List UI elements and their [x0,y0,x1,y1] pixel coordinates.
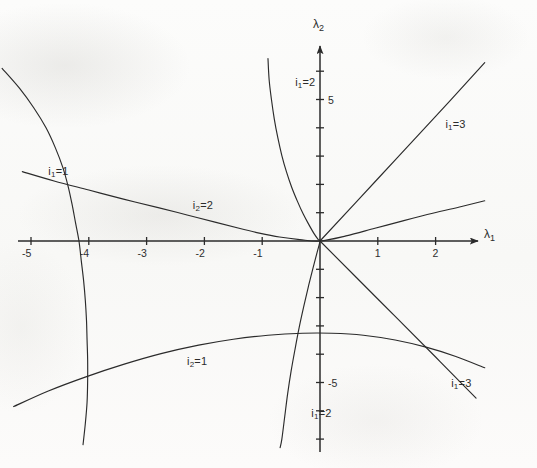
x-tick-label: -4 [80,248,89,259]
curve-label-value: =2 [319,407,332,419]
curve-i2_eq_1 [14,333,485,407]
curves-group [2,58,485,447]
curve-i1_eq_3_lower [320,241,476,398]
x-tick-label: -1 [253,248,262,259]
curve-label-value: =3 [453,118,466,130]
curve-label-value: =1 [194,355,207,367]
plot-drawing [0,0,537,468]
x-tick-label: -3 [138,248,147,259]
curve-label-2: i1=2 [295,77,315,90]
curve-label-value: =2 [200,199,213,211]
y-axis-title-subscript: 2 [319,23,324,33]
x-axis-title-subscript: 1 [490,233,495,243]
y-tick-label: -5 [328,378,337,389]
curve-i1_eq_1 [2,68,88,444]
curve-label-1: i1=1 [48,166,68,179]
x-tick-label: -2 [195,248,204,259]
curve-i1_eq_2 [268,58,320,447]
curve-label-3: i1=3 [445,119,465,132]
curve-label-6: i1=2 [311,408,331,421]
curve-label-value: =2 [302,76,315,88]
curve-i1_eq_3_upper [320,63,485,241]
curve-label-value: =3 [459,377,472,389]
curve-label-5: i2=1 [187,356,207,369]
curve-i2_eq_2 [22,172,484,241]
curve-label-4: i2=2 [193,200,213,213]
y-axis-title: λ2 [313,18,324,33]
curve-label-value: =1 [56,165,69,177]
x-tick-label: -5 [22,248,31,259]
figure-canvas: λ1 λ2 -5-4-3-2-1125-5 i1=1i1=2i1=3i2=2i2… [0,0,537,468]
curve-label-7: i1=3 [451,378,471,391]
x-tick-label: 1 [375,248,381,259]
x-axis-title: λ1 [484,228,495,243]
y-tick-label: 5 [328,95,334,106]
x-tick-label: 2 [433,248,439,259]
